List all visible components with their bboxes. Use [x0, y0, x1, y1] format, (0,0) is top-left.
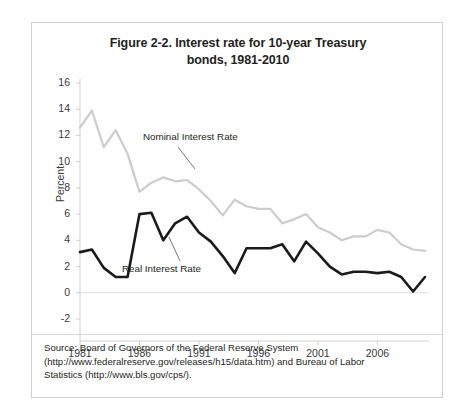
series-label-real: Real Interest Rate [122, 263, 201, 274]
source-note: Source: Board of Governors of the Federa… [44, 341, 436, 382]
series-label-nominal: Nominal Interest Rate [143, 131, 238, 142]
scan-artifact [95, 0, 315, 9]
source-divider [32, 334, 442, 335]
figure-container: Figure 2-2. Interest rate for 10-year Tr… [31, 22, 443, 398]
source-line-3: Statistics (http://www.bls.gov/cps/). [44, 368, 436, 382]
source-line-1: Source: Board of Governors of the Federa… [44, 341, 436, 355]
source-line-2: (http://www.federalreserve.gov/releases/… [44, 355, 436, 369]
